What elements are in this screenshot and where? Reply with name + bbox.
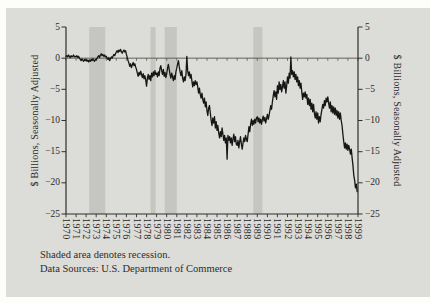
x-axis-label: 1984 <box>202 218 212 240</box>
y-axis-label-right: −15 <box>365 146 380 157</box>
footnotes: Shaded area denotes recession. Data Sour… <box>40 248 232 276</box>
y-axis-label-left: −15 <box>32 146 60 157</box>
y-axis-label-left: −10 <box>32 115 60 126</box>
x-axis-label: 1989 <box>252 218 262 240</box>
y-axis-label-left: −20 <box>32 177 60 188</box>
x-axis-label: 1985 <box>212 218 222 240</box>
x-axis-label: 1999 <box>353 218 363 240</box>
x-axis-label: 1974 <box>101 218 111 240</box>
x-axis-label: 1983 <box>192 218 202 240</box>
trade-balance-line <box>66 49 357 191</box>
x-axis-label: 1996 <box>323 218 333 240</box>
x-axis-label: 1981 <box>172 218 182 240</box>
y-axis-label-right: −25 <box>365 209 380 220</box>
x-axis-label: 1988 <box>242 218 252 240</box>
y-axis-label-right: 0 <box>365 53 370 64</box>
x-axis-label: 1972 <box>81 218 91 240</box>
y-axis-label-right: 5 <box>365 22 370 33</box>
x-axis-label: 1970 <box>61 218 71 240</box>
y-axis-label-left: 5 <box>32 22 60 33</box>
x-axis-label: 1986 <box>222 218 232 240</box>
x-axis-label: 1980 <box>162 218 172 240</box>
x-axis-label: 1998 <box>343 218 353 240</box>
recession-band <box>165 27 177 214</box>
x-axis-label: 1995 <box>313 218 323 240</box>
x-axis-label: 1977 <box>132 218 142 240</box>
x-axis-label: 1973 <box>91 218 101 240</box>
y-axis-label-left: −5 <box>32 84 60 95</box>
y-axis-label-right: −20 <box>365 177 380 188</box>
x-axis-label: 1975 <box>111 218 121 240</box>
y-axis-label-right: −5 <box>365 84 375 95</box>
recession-band <box>151 27 156 214</box>
x-axis-label: 1978 <box>142 218 152 240</box>
y-axis-title-right: $ Billions, Seasonally Adjusted <box>390 36 403 206</box>
x-axis-label: 1971 <box>71 218 81 240</box>
y-axis-label-left: −25 <box>32 209 60 220</box>
footnote-recession-note: Shaded area denotes recession. <box>40 248 232 262</box>
x-axis-label: 1991 <box>272 218 282 240</box>
y-axis-label-left: 0 <box>32 53 60 64</box>
x-axis-label: 1990 <box>262 218 272 240</box>
footnote-data-source: Data Sources: U.S. Department of Commerc… <box>40 262 232 276</box>
x-axis-label: 1976 <box>121 218 131 240</box>
x-axis-label: 1979 <box>152 218 162 240</box>
page: { "figure": { "left_axis_title": "$ Bill… <box>0 0 430 303</box>
x-axis-label: 1992 <box>283 218 293 240</box>
x-axis-label: 1993 <box>293 218 303 240</box>
x-axis-label: 1982 <box>182 218 192 240</box>
x-axis-label: 1987 <box>232 218 242 240</box>
x-axis-label: 1997 <box>333 218 343 240</box>
figure-panel: $ Billions, Seasonally Adjusted $ Billio… <box>6 8 430 297</box>
x-axis-label: 1994 <box>303 218 313 240</box>
y-axis-label-right: −10 <box>365 115 380 126</box>
